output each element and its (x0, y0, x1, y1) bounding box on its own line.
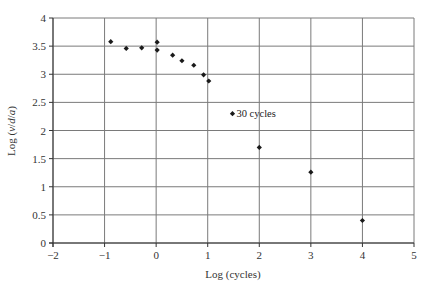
x-axis-label: Log (cycles) (205, 268, 261, 281)
gridlines (53, 18, 414, 243)
data-point-diamond (179, 58, 184, 63)
x-tick-label: 1 (205, 249, 211, 261)
y-tick-label: 2.5 (32, 96, 46, 108)
y-tick-label: 1.5 (32, 153, 46, 165)
y-tick-label: 1 (41, 181, 47, 193)
data-point-diamond (360, 218, 365, 223)
y-tick-label: 4 (41, 12, 47, 24)
y-tick-label: 0 (41, 237, 47, 249)
annotation-label: 30 cycles (236, 108, 275, 119)
x-tick-label: 4 (360, 249, 366, 261)
data-point-diamond (155, 47, 160, 52)
axes (49, 18, 414, 247)
x-tick-label: −1 (99, 249, 111, 261)
y-axis-label: Log (v/d/a) (5, 106, 18, 156)
y-tick-label: 0.5 (32, 209, 46, 221)
x-tick-label: 5 (411, 249, 417, 261)
y-tick-label: 2 (41, 125, 47, 137)
data-point-diamond (308, 170, 313, 175)
data-point-diamond (206, 78, 211, 83)
data-point-diamond (257, 145, 262, 150)
data-point-diamond (108, 39, 113, 44)
data-point-diamond (155, 40, 160, 45)
data-point-diamond (201, 72, 206, 77)
x-tick-label: 3 (308, 249, 314, 261)
data-point-diamond (230, 111, 235, 116)
x-tick-label: 2 (257, 249, 263, 261)
data-point-diamond (170, 53, 175, 58)
data-point-diamond (191, 63, 196, 68)
x-tick-label: 0 (153, 249, 159, 261)
y-tick-label: 3 (41, 68, 47, 80)
y-tick-label: 3.5 (32, 40, 46, 52)
chart: −2−1012345 00.511.522.533.54 30 cycles L… (0, 0, 429, 290)
x-tick-label: −2 (47, 249, 59, 261)
x-tick-labels: −2−1012345 (47, 249, 417, 261)
data-points (108, 39, 365, 223)
annotations: 30 cycles (236, 108, 275, 119)
y-tick-labels: 00.511.522.533.54 (32, 12, 46, 249)
